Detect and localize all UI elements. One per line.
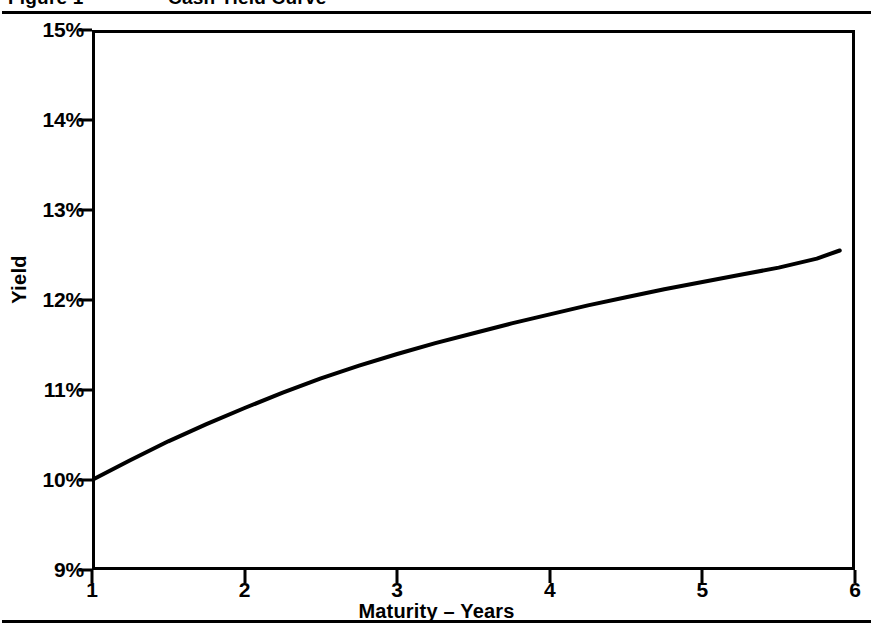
- y-axis-title: Yield: [8, 240, 31, 320]
- x-axis-tick-mark: [396, 570, 399, 583]
- x-axis-tick-label: 6: [825, 578, 873, 602]
- x-axis-tick-mark: [91, 570, 94, 583]
- figure-container: Figure 1 Cash Yield Curve 9%10%11%12%13%…: [0, 0, 873, 627]
- x-axis-tick-mark: [701, 570, 704, 583]
- x-axis-tick-mark: [243, 570, 246, 583]
- x-axis-tick-mark: [854, 570, 857, 583]
- y-axis-tick-mark: [79, 29, 92, 32]
- y-axis-tick-label: 13%: [10, 198, 84, 222]
- y-axis-tick-label: 14%: [10, 108, 84, 132]
- y-axis-tick-mark: [79, 209, 92, 212]
- y-axis-tick-mark: [79, 299, 92, 302]
- y-axis-tick-mark: [79, 119, 92, 122]
- y-axis-tick-mark: [79, 389, 92, 392]
- x-axis-tick-mark: [548, 570, 551, 583]
- figure-title-row: Figure 1 Cash Yield Curve: [0, 0, 873, 11]
- figure-title-band: Figure 1 Cash Yield Curve: [0, 0, 873, 11]
- yield-curve-line: [92, 251, 840, 481]
- y-axis-tick-label: 10%: [10, 468, 84, 492]
- horizontal-rule-top: [2, 11, 871, 14]
- y-axis-tick-label: 11%: [10, 378, 84, 402]
- y-axis-tick-label: 15%: [10, 18, 84, 42]
- y-axis-tick-mark: [79, 479, 92, 482]
- figure-title: Cash Yield Curve: [168, 0, 326, 9]
- yield-curve-plot: [92, 30, 855, 570]
- horizontal-rule-bottom: [2, 620, 871, 623]
